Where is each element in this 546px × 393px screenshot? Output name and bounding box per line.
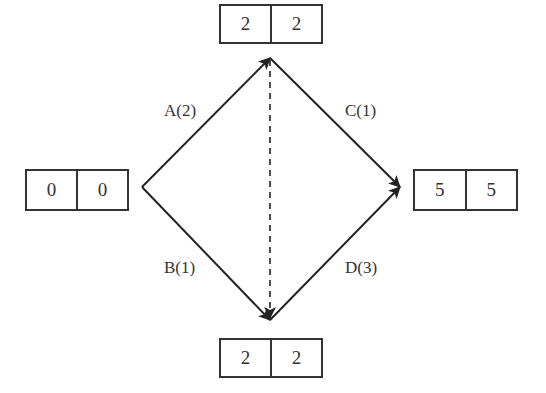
arrow-c (270, 58, 400, 187)
node-end-box: 5 5 (413, 169, 518, 211)
activity-d-label: D(3) (345, 258, 377, 278)
activity-b-label: B(1) (164, 258, 195, 278)
arrow-b (142, 187, 270, 320)
activity-c-label: C(1) (345, 101, 376, 121)
node-start-box: 0 0 (25, 169, 129, 211)
node-lower-late: 2 (270, 340, 321, 376)
node-lower-box: 2 2 (219, 338, 323, 378)
node-upper-box: 2 2 (219, 4, 323, 44)
node-start-early: 0 (27, 171, 76, 209)
node-end-early: 5 (415, 171, 465, 209)
arrow-d (270, 187, 400, 320)
node-lower-early: 2 (221, 340, 270, 376)
arrow-a (142, 58, 270, 187)
node-upper-early: 2 (221, 6, 270, 42)
activity-a-label: A(2) (164, 101, 196, 121)
node-end-late: 5 (465, 171, 517, 209)
node-start-late: 0 (76, 171, 127, 209)
node-upper-late: 2 (270, 6, 321, 42)
